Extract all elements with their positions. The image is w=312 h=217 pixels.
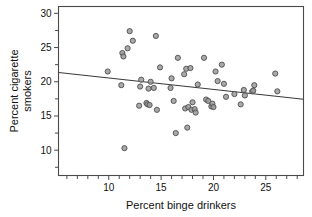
data-point (151, 85, 156, 90)
data-point (137, 103, 142, 108)
data-point (195, 82, 200, 87)
data-point (193, 110, 198, 115)
data-point (168, 85, 173, 90)
data-point (223, 94, 228, 99)
data-point (201, 55, 206, 60)
data-point (146, 86, 151, 91)
data-point (238, 102, 243, 107)
data-point (185, 125, 190, 130)
data-point (154, 107, 159, 112)
data-point (252, 83, 257, 88)
data-point (139, 77, 144, 82)
y-tick-label: 10 (40, 145, 52, 156)
x-tick-label: 20 (208, 182, 220, 193)
data-point (182, 72, 187, 77)
y-tick-label: 15 (40, 110, 52, 121)
data-point (188, 65, 193, 70)
x-axis-label: Percent binge drinkers (126, 199, 237, 211)
y-tick-label: 20 (40, 76, 52, 87)
data-point (169, 76, 174, 81)
data-point (122, 146, 127, 151)
data-point (215, 78, 220, 83)
x-tick-label: 25 (260, 182, 272, 193)
x-tick-label: 15 (156, 182, 168, 193)
data-point (273, 71, 278, 76)
x-tick-label: 10 (103, 182, 115, 193)
data-point (213, 69, 218, 74)
data-point (138, 84, 143, 89)
data-point (173, 130, 178, 135)
data-point (242, 93, 247, 98)
data-point (275, 89, 280, 94)
data-point (171, 98, 176, 103)
chart-canvas: 10152025 1015202530 Percent binge drinke… (0, 0, 312, 217)
y-tick-label: 25 (40, 42, 52, 53)
data-point (190, 100, 195, 105)
data-point (153, 33, 158, 38)
data-point (119, 83, 124, 88)
data-point (125, 46, 130, 51)
data-point (221, 81, 226, 86)
y-axis-label-line2: smokers (21, 70, 33, 112)
y-axis-label-line1: Percent cigarette (8, 49, 20, 132)
data-point (241, 87, 246, 92)
data-point (251, 88, 256, 93)
data-point (232, 91, 237, 96)
data-point (127, 29, 132, 34)
data-point (157, 65, 162, 70)
data-point (105, 69, 110, 74)
scatter-plot-figure: 10152025 1015202530 Percent binge drinke… (0, 0, 312, 217)
data-point (175, 55, 180, 60)
data-point (211, 104, 216, 109)
data-point (148, 79, 153, 84)
data-point (121, 54, 126, 59)
data-point (147, 102, 152, 107)
y-tick-label: 30 (40, 8, 52, 19)
data-point (130, 38, 135, 43)
data-point (219, 62, 224, 67)
